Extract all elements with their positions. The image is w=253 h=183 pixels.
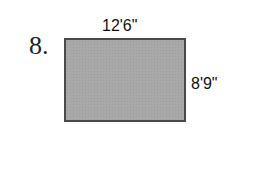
problem-number: 8. [29,33,49,59]
width-label: 12'6" [102,18,137,34]
rectangle-shape [64,38,186,122]
height-label: 8'9" [191,76,218,92]
